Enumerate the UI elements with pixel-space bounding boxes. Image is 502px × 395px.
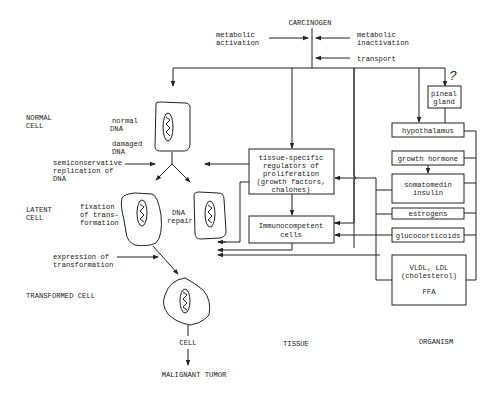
question-mark: ? (449, 69, 457, 84)
lipids-line1: VLDL, LDL (410, 264, 449, 272)
organism-column-label: ORGANISM (419, 338, 454, 346)
cell-column-label: CELL (179, 339, 196, 347)
mid-drop-lower (334, 181, 354, 223)
carcinogen-label: CARCINOGEN (288, 19, 331, 27)
latent-cell-label-2: CELL (26, 214, 43, 222)
somatomedin-line2: insulin (413, 189, 443, 197)
somatomedin-line1: somatomedin (404, 181, 451, 189)
normal-cell-label-2: CELL (26, 122, 43, 130)
normal-cell-label-1: NORMAL (26, 114, 52, 122)
split-left-arrow (156, 164, 172, 180)
semiconservative-3: DNA (53, 175, 67, 183)
lipids-box (392, 255, 466, 305)
regulators-line3: proliferation (263, 170, 319, 178)
damaged-dna-1: damaged (112, 140, 142, 148)
metabolic-activation-line1: metabolic (216, 31, 255, 39)
pineal-line1: pineal (431, 90, 457, 98)
dna-repair-1: DNA (172, 209, 186, 217)
expression-2: transformation (53, 261, 113, 269)
expression-1: expression of (53, 253, 109, 261)
malignant-tumor-label: MALIGNANT TUMOR (162, 371, 227, 379)
latent-to-transformed-arrow (153, 246, 178, 274)
estrogens-label: estrogens (409, 210, 448, 218)
fixation-2: of trans- (80, 211, 119, 219)
transport-label: transport (357, 55, 396, 63)
semiconservative-1: semiconservative (53, 159, 122, 167)
normal-dna-1: normal (112, 117, 138, 125)
semiconservative-2: replication of (53, 167, 113, 175)
regulators-line2: regulators of (263, 162, 319, 170)
fixation-1: fixation (80, 203, 115, 211)
transformed-cell-label: TRANSFORMED CELL (26, 292, 95, 300)
damaged-dna-2: DNA (112, 148, 126, 156)
metabolic-inactivation-line2: inactivation (357, 39, 409, 47)
pineal-line2: gland (433, 98, 455, 106)
fixation-3: formation (80, 219, 119, 227)
lipids-left-tie (376, 255, 392, 280)
lipids-line4: FFA (423, 288, 437, 296)
carcinogenesis-diagram: CARCINOGEN metabolic activation metaboli… (0, 0, 502, 395)
immuno-line2: cells (280, 231, 302, 239)
normal-nucleus (163, 113, 173, 141)
glucocorticoids-label: glucocorticoids (396, 232, 461, 240)
dna-repair-2: repair (167, 217, 193, 225)
hypothalamus-label: hypothalamus (402, 127, 454, 135)
tissue-column-label: TISSUE (283, 340, 309, 348)
regulators-line4: (growth factors, (256, 178, 325, 186)
immuno-line1: Immunocompetent (259, 222, 324, 230)
lipids-line2: (cholesterol) (401, 272, 457, 280)
metabolic-activation-line2: activation (216, 39, 259, 47)
growth-hormone-label: growth hormone (398, 155, 458, 163)
latent-cell-label-1: LATENT (26, 206, 53, 214)
split-right-arrow (172, 164, 190, 182)
metabolic-inactivation-line1: metabolic (357, 31, 396, 39)
immuno-feedback-line (226, 243, 292, 250)
normal-dna-2: DNA (110, 125, 124, 133)
regulators-line5: chalones) (272, 186, 311, 194)
regulators-line1: tissue-specific (259, 154, 324, 162)
